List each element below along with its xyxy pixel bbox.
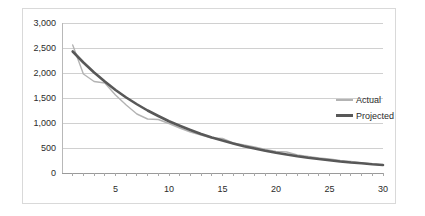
chart-legend: Actual Projected [336,92,394,124]
x-axis-tick-label: 10 [157,184,181,194]
x-axis-tick-label: 15 [211,184,235,194]
legend-line-projected-icon [336,114,353,117]
legend-line-actual-icon [336,99,353,101]
chart-container: 05001,0001,5002,0002,5003,000 5101520253… [0,0,425,216]
legend-item-actual: Actual [336,92,394,107]
x-axis-tick-label: 20 [264,184,288,194]
y-axis-tick-label: 0 [20,168,56,178]
y-axis-tick-label: 500 [20,143,56,153]
legend-label-projected: Projected [356,111,394,121]
gridlines [62,23,383,173]
legend-item-projected: Projected [336,108,394,123]
y-axis-tick-label: 2,500 [20,43,56,53]
legend-label-actual: Actual [356,95,381,105]
y-axis-tick-label: 3,000 [20,18,56,28]
y-axis-tick-label: 1,000 [20,118,56,128]
x-axis-tick-label: 5 [104,184,128,194]
y-axis-tick-label: 1,500 [20,93,56,103]
y-axis-tick-label: 2,000 [20,68,56,78]
x-axis-tick-label: 25 [318,184,342,194]
x-axis-tick-label: 30 [371,184,395,194]
